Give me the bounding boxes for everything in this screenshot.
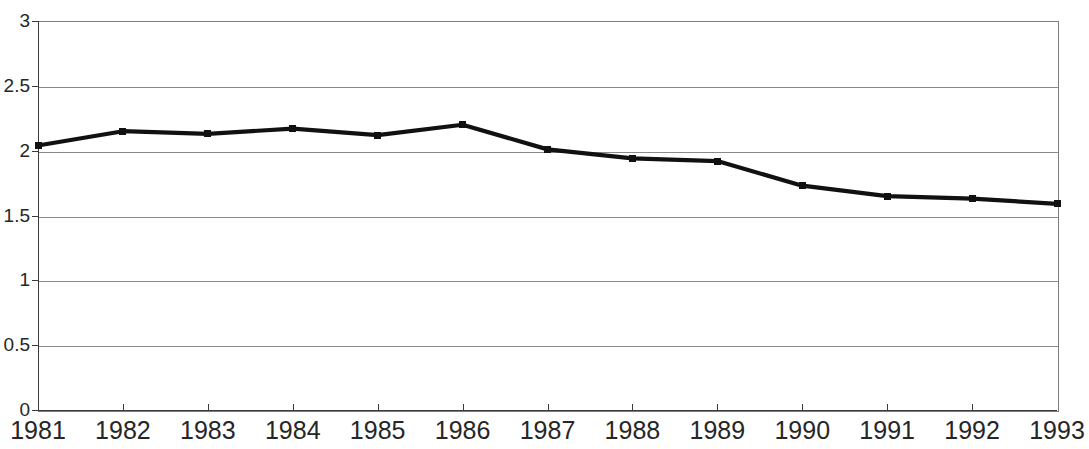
- plot-area: [38, 21, 1059, 412]
- x-tick-mark: [717, 404, 718, 411]
- x-tick-mark: [887, 404, 888, 411]
- x-tick-label: 1985: [333, 415, 423, 445]
- y-tick-mark: [32, 410, 39, 411]
- x-tick-mark: [632, 404, 633, 411]
- y-tick-label: 2: [0, 141, 30, 160]
- x-tick-label: 1991: [842, 415, 932, 445]
- data-point: [204, 130, 211, 137]
- gridline: [39, 346, 1058, 347]
- data-point: [629, 155, 636, 162]
- y-tick-mark: [32, 280, 39, 281]
- x-tick-label: 1993: [1012, 415, 1089, 445]
- data-point: [1054, 200, 1061, 207]
- y-tick-mark: [32, 216, 39, 217]
- x-tick-label: 1989: [672, 415, 762, 445]
- data-point: [459, 121, 466, 128]
- y-tick-mark: [32, 21, 39, 22]
- x-tick-label: 1981: [0, 415, 83, 445]
- data-point: [714, 158, 721, 165]
- x-tick-label: 1990: [757, 415, 847, 445]
- data-point: [884, 193, 891, 200]
- gridline: [39, 281, 1058, 282]
- x-tick-mark: [548, 404, 549, 411]
- x-tick-label: 1988: [587, 415, 677, 445]
- chart-title: [0, 0, 1082, 3]
- y-tick-mark: [32, 345, 39, 346]
- x-tick-mark: [802, 404, 803, 411]
- x-tick-mark: [208, 404, 209, 411]
- x-tick-label: 1983: [163, 415, 253, 445]
- y-tick-label: 0.5: [0, 335, 30, 354]
- x-tick-label: 1992: [927, 415, 1017, 445]
- x-tick-label: 1987: [503, 415, 593, 445]
- data-point: [119, 128, 126, 135]
- data-point: [374, 132, 381, 139]
- y-tick-label: 3: [0, 11, 30, 30]
- x-tick-label: 1982: [78, 415, 168, 445]
- x-tick-mark: [463, 404, 464, 411]
- data-point: [289, 125, 296, 132]
- data-point: [969, 195, 976, 202]
- x-tick-label: 1984: [248, 415, 338, 445]
- x-tick-mark: [293, 404, 294, 411]
- x-tick-mark: [972, 404, 973, 411]
- y-tick-label: 1.5: [0, 206, 30, 225]
- gridline: [39, 87, 1058, 88]
- y-tick-mark: [32, 151, 39, 152]
- x-tick-mark: [378, 404, 379, 411]
- gridline: [39, 217, 1058, 218]
- x-tick-label: 1986: [418, 415, 508, 445]
- y-tick-mark: [32, 86, 39, 87]
- y-tick-label: 2.5: [0, 76, 30, 95]
- data-point: [544, 146, 551, 153]
- data-point: [799, 182, 806, 189]
- x-tick-mark: [123, 404, 124, 411]
- data-point: [35, 142, 42, 149]
- y-tick-label: 1: [0, 270, 30, 289]
